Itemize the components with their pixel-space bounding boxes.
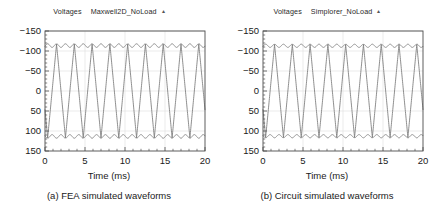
x-tick-label: 0 — [260, 155, 265, 166]
x-axis-ticks — [263, 147, 423, 151]
y-tick-label: −150 — [20, 26, 41, 36]
legend-marker-icon: ▴ — [377, 7, 380, 14]
y-axis-tick-labels: 150100500−50−100−150 — [20, 26, 41, 156]
plot-area-circuit: 150100500−50−100−150 05101520 — [218, 26, 436, 166]
x-tick-label: 10 — [338, 155, 349, 166]
legend-panel-b: VoltagesSimplorer_NoLoad▴ — [218, 7, 436, 16]
x-axis-label-circuit: Time (ms) — [218, 170, 436, 181]
x-tick-label: 15 — [160, 155, 171, 166]
x-axis-ticks — [45, 147, 205, 151]
y-tick-label: 50 — [248, 105, 259, 116]
legend-marker-icon: ▴ — [162, 7, 165, 14]
y-tick-label: −100 — [20, 45, 41, 56]
legend-title: Voltages — [53, 7, 81, 16]
x-axis-label-fea: Time (ms) — [0, 170, 218, 181]
y-tick-label: 100 — [25, 125, 41, 136]
caption-circuit: (b) Circuit simulated waveforms — [218, 190, 436, 201]
y-tick-label: 150 — [25, 145, 41, 156]
plot-svg-circuit: 150100500−50−100−150 05101520 — [218, 26, 436, 166]
x-tick-label: 15 — [378, 155, 389, 166]
panel-fea: VoltagesMaxwell2D_NoLoad▴ — [0, 0, 218, 211]
y-tick-label: −150 — [238, 26, 259, 36]
y-axis-tick-labels: 150100500−50−100−150 — [238, 26, 259, 156]
x-tick-label: 20 — [418, 155, 429, 166]
x-tick-label: 5 — [82, 155, 87, 166]
y-tick-label: 150 — [243, 145, 259, 156]
legend-series-label: Maxwell2D_NoLoad — [91, 7, 157, 16]
x-tick-label: 0 — [42, 155, 47, 166]
caption-fea: (a) FEA simulated waveforms — [0, 190, 218, 201]
y-tick-label: 0 — [36, 85, 41, 96]
legend-title: Voltages — [273, 7, 301, 16]
x-axis-tick-labels: 05101520 — [42, 155, 210, 166]
y-tick-label: −50 — [25, 65, 41, 76]
y-tick-label: 100 — [243, 125, 259, 136]
figure-two-panel-waveforms: VoltagesMaxwell2D_NoLoad▴ — [0, 0, 436, 211]
y-tick-label: −100 — [238, 45, 259, 56]
plot-area-fea: 150100500−50−100−150 05101520 — [0, 26, 218, 166]
panel-circuit: VoltagesSimplorer_NoLoad▴ — [218, 0, 436, 211]
x-tick-label: 10 — [120, 155, 131, 166]
grid-lines — [45, 31, 205, 151]
legend-panel-a: VoltagesMaxwell2D_NoLoad▴ — [0, 7, 218, 16]
x-tick-label: 20 — [200, 155, 211, 166]
x-axis-tick-labels: 05101520 — [260, 155, 428, 166]
y-tick-label: −50 — [243, 65, 259, 76]
x-tick-label: 5 — [300, 155, 305, 166]
y-tick-label: 0 — [254, 85, 259, 96]
y-tick-label: 50 — [30, 105, 41, 116]
legend-series-label: Simplorer_NoLoad — [311, 7, 373, 16]
plot-svg-fea: 150100500−50−100−150 05101520 — [0, 26, 218, 166]
